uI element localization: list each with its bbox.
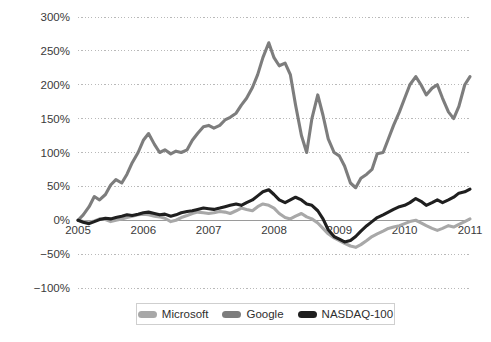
legend-item[interactable]: NASDAQ-100 (298, 308, 394, 320)
y-axis-tick-label: 150% (41, 113, 70, 125)
legend-item[interactable]: Microsoft (138, 308, 209, 320)
chart-plot-area: 300%250%200%150%100%50%0%−50%−100% 20052… (0, 0, 491, 342)
legend-swatch-icon (138, 311, 157, 318)
legend-item-label: NASDAQ-100 (322, 308, 394, 320)
y-axis-tick-labels: 300%250%200%150%100%50%0%−50%−100% (34, 11, 70, 294)
x-axis-tick-label: 2008 (261, 224, 287, 236)
y-axis-tick-label: −50% (40, 248, 70, 260)
y-axis-tick-label: 50% (47, 180, 70, 192)
data-series-lines (78, 43, 470, 248)
x-axis-tick-label: 2011 (458, 224, 483, 236)
chart-legend: MicrosoftGoogleNASDAQ-100 (136, 303, 395, 325)
y-axis-tick-label: 100% (41, 147, 70, 159)
legend-item[interactable]: Google (222, 308, 283, 320)
x-axis-tick-label: 2007 (196, 224, 222, 236)
legend-swatch-icon (222, 311, 241, 318)
y-axis-tick-label: 200% (41, 79, 70, 91)
legend-item-label: Google (246, 308, 283, 320)
y-axis-tick-label: −100% (34, 282, 70, 294)
x-axis-tick-label: 2005 (65, 224, 91, 236)
x-axis-tick-labels: 2005200620072008200920102011 (65, 224, 482, 236)
y-axis-tick-label: 300% (41, 11, 70, 23)
legend-item-label: Microsoft (162, 308, 209, 320)
stock-performance-chart: 300%250%200%150%100%50%0%−50%−100% 20052… (0, 0, 491, 342)
legend-swatch-icon (298, 311, 317, 318)
y-axis-tick-label: 250% (41, 45, 70, 57)
x-axis-tick-label: 2006 (131, 224, 157, 236)
